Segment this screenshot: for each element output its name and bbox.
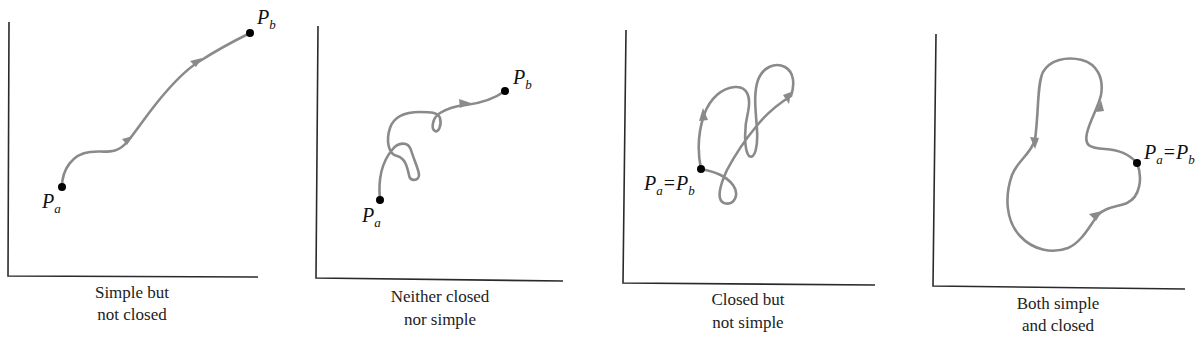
start-end-point: [697, 165, 705, 173]
panel-simple-and-closed: Pa=Pb Both simple and closed: [933, 34, 1195, 335]
panel-closed-not-simple: Pa=Pb Closed but not simple: [623, 30, 875, 332]
arrow-icon: [1089, 211, 1102, 221]
start-label: Pa: [41, 190, 61, 216]
curve-path: [380, 91, 506, 200]
point-label: Pa=Pb: [643, 172, 695, 198]
panel-neither-closed-nor-simple: Pa Pb Neither closed nor simple: [316, 26, 563, 329]
caption-line-1: Both simple: [1017, 294, 1100, 313]
start-label: Pa: [361, 204, 381, 230]
curve-path: [1007, 59, 1139, 251]
caption-line-2: and closed: [1022, 316, 1095, 335]
end-point: [501, 87, 509, 95]
panel-simple-not-closed: Pa Pb Simple but not closed: [8, 6, 276, 324]
axes: [8, 22, 258, 277]
curve-path: [699, 65, 793, 203]
arrow-icon: [459, 99, 471, 108]
start-point: [376, 196, 384, 204]
curve-classification-figure: Pa Pb Simple but not closed Pa Pb Neithe…: [0, 0, 1199, 338]
start-point: [58, 183, 66, 191]
caption-line-2: nor simple: [404, 310, 476, 329]
caption-line-1: Closed but: [711, 290, 784, 309]
end-label: Pb: [256, 6, 276, 32]
end-label: Pb: [512, 66, 532, 92]
caption-line-2: not closed: [97, 305, 167, 324]
caption-line-1: Simple but: [95, 283, 169, 302]
point-label: Pa=Pb: [1143, 141, 1195, 167]
axes: [316, 26, 563, 281]
arrow-icon: [783, 92, 791, 104]
caption-line-1: Neither closed: [391, 287, 490, 306]
curve-path: [62, 33, 250, 187]
start-end-point: [1133, 159, 1141, 167]
arrow-icon: [122, 136, 133, 145]
end-point: [246, 29, 254, 37]
caption-line-2: not simple: [712, 313, 783, 332]
